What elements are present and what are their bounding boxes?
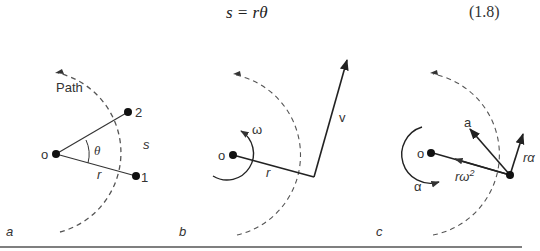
- panel-a: o Path 2 1 θ s r a: [6, 69, 150, 239]
- centripetal-text: rω: [455, 169, 469, 184]
- radius-line-2: [56, 112, 128, 154]
- center-point: [52, 150, 60, 158]
- point-2-label: 2: [135, 105, 142, 120]
- centripetal-exponent: 2: [468, 168, 474, 178]
- angle-label: θ: [94, 143, 101, 158]
- panel-label-a: a: [6, 224, 13, 239]
- path-label: Path: [56, 80, 83, 95]
- acceleration-label: a: [464, 115, 472, 130]
- panel-c: o a rα rω2 α c: [376, 70, 535, 239]
- particle-point: [506, 171, 514, 179]
- path-arrow-icon: [55, 69, 64, 74]
- path-arrow-icon: [430, 70, 438, 75]
- center-point: [229, 151, 237, 159]
- panel-b: o ω v r b: [179, 60, 347, 239]
- alpha-label: α: [414, 179, 422, 194]
- center-label: o: [218, 148, 225, 163]
- panel-label-b: b: [179, 224, 186, 239]
- acceleration-vector: [470, 129, 510, 175]
- tangential-label: rα: [523, 150, 535, 165]
- kinematics-diagram: o Path 2 1 θ s r a o ω v r b o a rα rω2: [0, 0, 540, 251]
- point-1-label: 1: [141, 170, 148, 185]
- arc-label: s: [143, 137, 150, 152]
- path-arc: [236, 75, 301, 235]
- center-label: o: [41, 147, 48, 162]
- path-arc: [433, 74, 499, 235]
- point-2: [124, 108, 132, 116]
- radius-label: r: [266, 165, 271, 180]
- center-label: o: [417, 146, 424, 161]
- panel-label-c: c: [376, 224, 383, 239]
- centripetal-label: rω2: [455, 168, 474, 184]
- omega-label: ω: [252, 122, 262, 137]
- velocity-label: v: [339, 110, 346, 125]
- angle-arc: [86, 140, 89, 163]
- radius-label: r: [97, 167, 102, 182]
- tangential-vector: [510, 134, 523, 175]
- point-1: [132, 172, 140, 180]
- center-point: [427, 149, 435, 157]
